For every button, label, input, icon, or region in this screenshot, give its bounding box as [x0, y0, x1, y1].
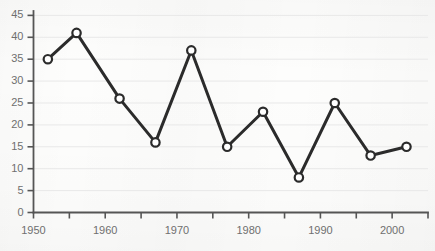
data-point[interactable] — [402, 143, 410, 151]
data-point[interactable] — [259, 108, 267, 116]
data-point[interactable] — [295, 173, 303, 181]
data-point[interactable] — [223, 143, 231, 151]
y-tick-label: 35 — [0, 53, 24, 64]
y-tick-label: 45 — [0, 9, 24, 20]
data-point[interactable] — [187, 46, 195, 54]
y-tick-label: 5 — [0, 185, 24, 196]
x-tick-label: 1960 — [75, 225, 135, 236]
x-tick-label: 1990 — [290, 225, 350, 236]
y-tick-label: 10 — [0, 163, 24, 174]
y-tick-label: 20 — [0, 119, 24, 130]
data-point[interactable] — [115, 94, 123, 102]
data-point[interactable] — [366, 151, 374, 159]
y-tick-label: 25 — [0, 97, 24, 108]
y-tick-label: 0 — [0, 207, 24, 218]
plot-area — [0, 0, 435, 251]
x-tick-label: 2000 — [362, 225, 422, 236]
x-tick-label: 1980 — [219, 225, 279, 236]
gridlines-horizontal — [34, 15, 429, 190]
data-point[interactable] — [331, 99, 339, 107]
y-tick-label: 15 — [0, 141, 24, 152]
data-markers — [44, 29, 411, 182]
data-point[interactable] — [44, 55, 52, 63]
y-tick-label: 40 — [0, 31, 24, 42]
data-point[interactable] — [151, 138, 159, 146]
x-tick-label: 1970 — [147, 225, 207, 236]
data-line — [48, 33, 407, 178]
y-tick-label: 30 — [0, 75, 24, 86]
x-tick-label: 1950 — [4, 225, 64, 236]
line-chart: 051015202530354045 195019601970198019902… — [0, 0, 435, 251]
data-point[interactable] — [72, 29, 80, 37]
